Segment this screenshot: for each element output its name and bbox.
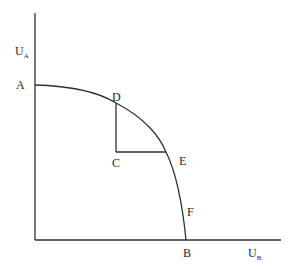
- x-axis-label: UB: [248, 246, 262, 262]
- y-axis-label: UA: [15, 44, 29, 60]
- point-label-f: F: [187, 205, 194, 219]
- frontier-curve: [35, 85, 186, 240]
- utility-frontier-diagram: UA UB A D C E F B: [0, 0, 295, 269]
- point-label-d: D: [112, 90, 121, 104]
- point-label-c: C: [112, 156, 120, 170]
- point-label-e: E: [179, 154, 186, 168]
- point-label-a: A: [16, 78, 25, 92]
- point-label-b: B: [183, 246, 191, 260]
